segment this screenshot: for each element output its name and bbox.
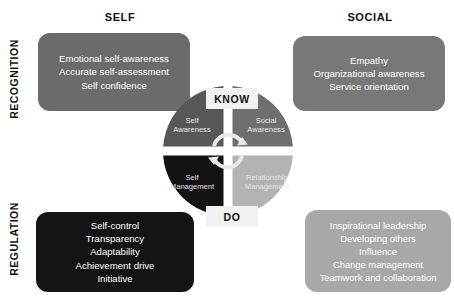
competency-item: Inspirational leadership (330, 219, 426, 232)
competency-item: Transparency (86, 232, 144, 245)
row-label-regulation: REGULATION (8, 189, 20, 289)
competency-item: Empathy (350, 54, 388, 67)
competency-item: Self-control (91, 219, 140, 232)
divider-horizontal (163, 147, 293, 156)
plate-know: KNOW (206, 88, 258, 109)
emotional-intelligence-diagram: SELF SOCIAL RECOGNITION REGULATION Emoti… (0, 0, 454, 302)
competency-box-social-awareness: Empathy Organizational awareness Service… (293, 36, 445, 111)
row-label-recognition: RECOGNITION (8, 29, 20, 129)
column-header-self: SELF (75, 11, 165, 23)
column-header-social: SOCIAL (325, 11, 415, 23)
competency-item: Service orientation (329, 80, 408, 93)
competency-item: Accurate self-assessment (59, 65, 169, 78)
competency-item: Adaptability (90, 245, 140, 258)
plate-do: DO (206, 206, 258, 227)
competency-item: Initiative (97, 272, 132, 285)
competency-item: Developing others (340, 232, 416, 245)
competency-item: Emotional self-awareness (59, 52, 169, 65)
competency-item: Change management (333, 258, 423, 271)
competency-item: Achievement drive (76, 259, 155, 272)
competency-item: Teamwork and collaboration (320, 271, 437, 284)
competency-box-relationship-management: Inspirational leadership Developing othe… (305, 210, 451, 292)
competency-item: Organizational awareness (314, 67, 425, 80)
competency-item: Influence (359, 245, 397, 258)
competency-item: Self confidence (81, 79, 147, 92)
